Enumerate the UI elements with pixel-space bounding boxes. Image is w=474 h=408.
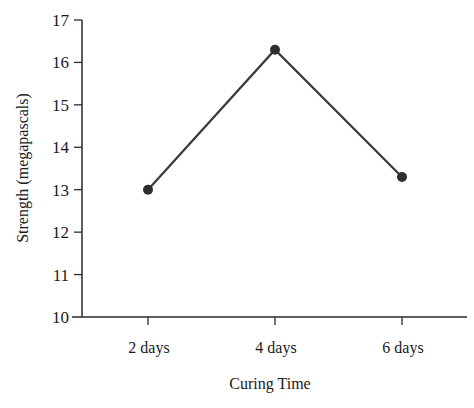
y-tick-label: 16 [52,53,69,72]
data-point-marker [270,45,280,55]
data-series [143,45,407,195]
x-axis-label: Curing Time [229,375,310,393]
y-tick-label: 10 [52,308,69,327]
x-tick-label: 2 days [128,339,169,357]
data-point-marker [397,172,407,182]
y-tick-label: 12 [52,223,69,242]
y-tick-label: 15 [52,96,69,115]
y-axis-ticks: 1011121314151617 [52,11,82,327]
y-tick-label: 13 [52,181,69,200]
x-axis-ticks: 2 days4 days6 days [128,317,423,357]
series-line [148,50,402,190]
y-tick-label: 14 [52,138,70,157]
x-tick-label: 4 days [255,339,296,357]
axes [72,20,467,317]
data-point-marker [143,185,153,195]
x-tick-label: 6 days [382,339,423,357]
y-axis-label: Strength (megapascals) [14,93,32,243]
line-chart: 1011121314151617 2 days4 days6 days Curi… [0,0,474,408]
y-tick-label: 17 [52,11,70,30]
y-tick-label: 11 [53,266,69,285]
